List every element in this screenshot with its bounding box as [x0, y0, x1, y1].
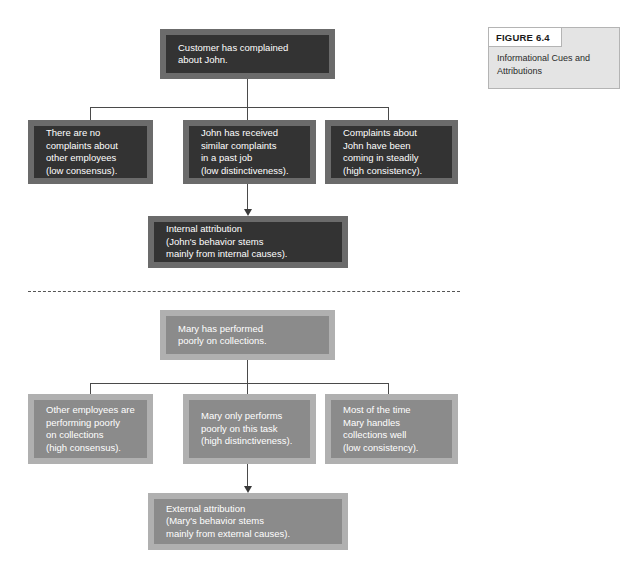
- connector-john-drop-right: [388, 107, 389, 120]
- node-mary-event: Mary has performed poorly on collections…: [160, 310, 335, 360]
- node-john-cue-consensus: There are no complaints about other empl…: [28, 120, 153, 184]
- connector-john-bus: [90, 107, 389, 108]
- node-mary-cue-distinctiveness-label: Mary only performs poorly on this task (…: [189, 410, 298, 448]
- node-john-conclusion: Internal attribution (John's behavior st…: [148, 216, 348, 268]
- scenario-divider: [28, 291, 460, 292]
- arrowhead-john-conclusion: [244, 209, 252, 216]
- node-john-cue-consensus-label: There are no complaints about other empl…: [34, 127, 124, 177]
- arrowhead-mary-conclusion: [244, 486, 252, 493]
- node-john-cue-distinctiveness: John has received similar complaints in …: [183, 120, 316, 184]
- figure-caption-text: Informational Cues and Attributions: [497, 52, 613, 78]
- node-mary-cue-consistency: Most of the time Mary handles collection…: [325, 394, 458, 464]
- connector-john-event-down: [247, 79, 248, 107]
- node-mary-conclusion-label: External attribution (Mary's behavior st…: [154, 503, 296, 541]
- connector-mary-drop-left: [90, 383, 91, 394]
- node-john-event: Customer has complained about John.: [160, 29, 335, 79]
- node-mary-cue-consensus: Other employees are performing poorly on…: [28, 394, 153, 464]
- connector-mary-event-down: [247, 360, 248, 383]
- diagram-canvas: FIGURE 6.4 Informational Cues and Attrib…: [0, 0, 635, 577]
- node-mary-cue-distinctiveness: Mary only performs poorly on this task (…: [183, 394, 316, 464]
- node-john-cue-consistency: Complaints about John have been coming i…: [325, 120, 458, 184]
- node-john-cue-consistency-label: Complaints about John have been coming i…: [331, 127, 428, 177]
- node-mary-conclusion: External attribution (Mary's behavior st…: [148, 493, 348, 550]
- node-mary-cue-consensus-label: Other employees are performing poorly on…: [34, 404, 141, 454]
- connector-john-drop-left: [90, 107, 91, 120]
- connector-mary-bus: [90, 383, 389, 384]
- node-mary-event-label: Mary has performed poorly on collections…: [166, 323, 273, 348]
- figure-number-tab: FIGURE 6.4: [489, 28, 562, 47]
- connector-mary-drop-right: [388, 383, 389, 394]
- node-mary-cue-consistency-label: Most of the time Mary handles collection…: [331, 404, 425, 454]
- connector-mary-drop-center: [247, 383, 248, 394]
- node-john-event-label: Customer has complained about John.: [166, 42, 294, 67]
- figure-callout-box: FIGURE 6.4 Informational Cues and Attrib…: [488, 27, 620, 89]
- connector-john-drop-center: [247, 107, 248, 120]
- node-john-cue-distinctiveness-label: John has received similar complaints in …: [189, 127, 295, 177]
- connector-john-to-conclusion: [247, 184, 248, 212]
- node-john-conclusion-label: Internal attribution (John's behavior st…: [154, 223, 293, 261]
